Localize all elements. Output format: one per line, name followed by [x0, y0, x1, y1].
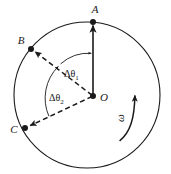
point-label-B: B [18, 34, 25, 46]
angle-symbol-delta-theta-2: Δθ [49, 92, 60, 103]
point-marker-O [90, 93, 96, 99]
point-label-C: C [10, 123, 18, 135]
angle-subscript-delta-theta-2: 2 [60, 98, 64, 106]
physics-figure: A B C O Δθ1 Δθ2 ω [0, 0, 171, 174]
point-label-O: O [100, 91, 108, 103]
point-label-A: A [91, 3, 99, 15]
diagram-canvas: A B C O Δθ1 Δθ2 ω [0, 0, 171, 174]
angular-velocity-label: ω [114, 114, 126, 122]
angle-symbol-delta-theta-1: Δθ [64, 68, 75, 79]
angle-label-delta-theta-2: Δθ2 [49, 92, 64, 106]
point-marker-B [28, 46, 34, 52]
point-marker-A [90, 19, 96, 25]
point-marker-C [22, 125, 28, 131]
angle-arc-delta-theta-1 [61, 53, 92, 64]
angle-subscript-delta-theta-1: 1 [75, 74, 79, 82]
disk-outline [14, 22, 160, 168]
